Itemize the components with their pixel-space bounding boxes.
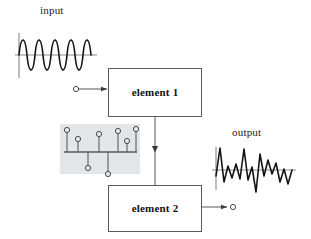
impulse-marker-icon: [124, 138, 129, 143]
impulse-marker-icon: [96, 131, 101, 136]
input-label: input: [40, 4, 64, 16]
impulse-marker-icon: [85, 165, 90, 170]
vertical-connector-arrowhead-icon: [152, 146, 158, 152]
output-terminal-node-icon: [230, 204, 235, 209]
input-terminal-connector: [73, 86, 107, 91]
output-terminal-connector: [202, 204, 236, 209]
output-waveform-plot: [212, 147, 296, 192]
impulse-marker-icon: [105, 171, 110, 176]
impulse-response-panel: [60, 124, 140, 177]
input-waveform-plot: [15, 33, 97, 78]
element1-to-element2-connector: [152, 117, 158, 185]
impulse-marker-icon: [133, 126, 138, 131]
impulse-marker-icon: [115, 128, 120, 133]
input-terminal-node-icon: [73, 86, 78, 91]
element-1-label: element 1: [108, 86, 202, 98]
element-2-label: element 2: [108, 202, 202, 214]
figure-block-diagram: input output element 1 element 2: [0, 0, 311, 239]
impulse-marker-icon: [64, 127, 69, 132]
impulse-marker-icon: [75, 136, 80, 141]
output-label: output: [232, 126, 261, 138]
